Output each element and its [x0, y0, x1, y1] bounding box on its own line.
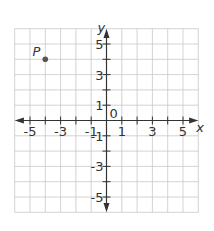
- x-tick-label: 3: [148, 124, 156, 139]
- tick-labels: -5-3-1135531-1-3-50xy: [24, 20, 205, 205]
- x-tick-label: -5: [24, 124, 37, 139]
- x-tick-label: -3: [54, 124, 67, 139]
- origin-label: 0: [110, 106, 118, 121]
- y-tick-label: 3: [95, 68, 103, 83]
- x-axis-left-arrow-icon: [15, 118, 24, 124]
- y-axis-down-arrow-icon: [104, 203, 110, 212]
- y-tick-label: 5: [95, 37, 103, 52]
- y-axis-label: y: [97, 20, 106, 35]
- y-tick-label: -1: [91, 129, 104, 144]
- x-tick-label: 1: [118, 124, 126, 139]
- y-tick-label: -3: [91, 159, 104, 174]
- x-axis-label: x: [195, 120, 204, 135]
- point-p: [43, 57, 49, 63]
- x-tick-label: 5: [179, 124, 187, 139]
- y-tick-label: -5: [91, 190, 104, 205]
- axes: [15, 29, 199, 213]
- point-label: P: [32, 44, 40, 59]
- y-tick-label: 1: [95, 98, 103, 113]
- coordinate-plane: -5-3-1135531-1-3-50xy P: [0, 0, 214, 231]
